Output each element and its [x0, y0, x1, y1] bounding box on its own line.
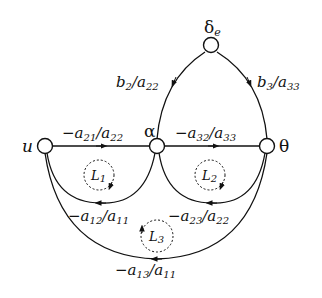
loop-l1-arrow-icon	[110, 182, 112, 187]
loop-l3-label: L3	[148, 229, 164, 245]
node-u	[38, 139, 53, 154]
node-u-label: u	[22, 136, 33, 156]
node-alpha-label: α	[144, 121, 156, 141]
loop-l2-label: L2	[201, 168, 217, 184]
loop-l1-label: L1	[90, 168, 106, 184]
edge-label-b3-a33: b3/a33	[257, 73, 300, 92]
edge-label-a12-a11: −a12/a11	[68, 207, 129, 226]
node-delta-e-label: δe	[204, 17, 221, 39]
signal-flow-graph: δe u α θ b2/a22 b3/a33 −a21/a22 −a32/a33…	[0, 0, 322, 298]
edge-label-a13-a11: −a13/a11	[115, 261, 176, 280]
node-theta-label: θ	[279, 136, 289, 156]
loop-l2-arrow-icon	[221, 182, 223, 187]
node-delta-e	[204, 38, 219, 53]
edge-deltae-theta	[217, 52, 267, 139]
edge-label-b2-a22: b2/a22	[116, 73, 159, 92]
edge-label-a21-a22: −a21/a22	[62, 124, 123, 143]
node-theta	[260, 139, 275, 154]
edge-label-a32-a33: −a32/a33	[175, 124, 236, 143]
edge-label-a23-a22: −a23/a22	[168, 207, 229, 226]
